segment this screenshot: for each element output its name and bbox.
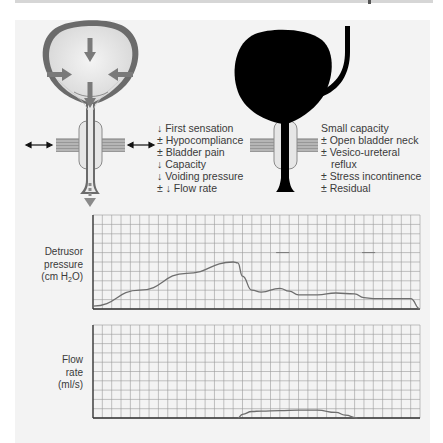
finding: ↓ Voiding pressure (157, 170, 243, 182)
axis-label-line: pressure (3, 259, 83, 272)
pressure-chart (93, 215, 420, 309)
finding: ± Vesico-ureteral (321, 146, 421, 158)
finding: ± Stress incontinence (321, 170, 421, 182)
finding: ± Bladder pain (157, 146, 243, 158)
black-bladder (235, 30, 332, 124)
finding: reflux (321, 158, 421, 170)
axis-label-line: (cm H2O) (3, 271, 83, 287)
pressure-axis-label: Detrusor pressure (cm H2O) (3, 246, 83, 287)
finding: ± Residual (321, 182, 421, 194)
flow-chart (93, 325, 420, 418)
finding: Small capacity (321, 122, 421, 134)
finding: ± Open bladder neck (321, 134, 421, 146)
trace-line (238, 410, 358, 418)
small-bladder-findings: Small capacity ± Open bladder neck ± Ves… (321, 122, 421, 194)
finding: ± Hypocompliance (157, 134, 243, 146)
axis-label-line: Flow (3, 354, 83, 367)
axis-label-line: Detrusor (3, 246, 83, 259)
finding: ↓ Capacity (157, 158, 243, 170)
axis-label-line: rate (3, 367, 83, 380)
axis-label-line: (ml/s) (3, 379, 83, 392)
finding: ± ↓ Flow rate (157, 182, 243, 194)
normal-bladder-diagram (26, 20, 154, 207)
pelvic-floor-right (101, 138, 125, 152)
trace-line (93, 262, 420, 309)
normal-bladder-findings: ↓ First sensation ± Hypocompliance ± Bla… (157, 122, 243, 194)
pelvic-floor-left (56, 138, 80, 152)
flow-axis-label: Flow rate (ml/s) (3, 354, 83, 392)
finding: ↓ First sensation (157, 122, 243, 134)
